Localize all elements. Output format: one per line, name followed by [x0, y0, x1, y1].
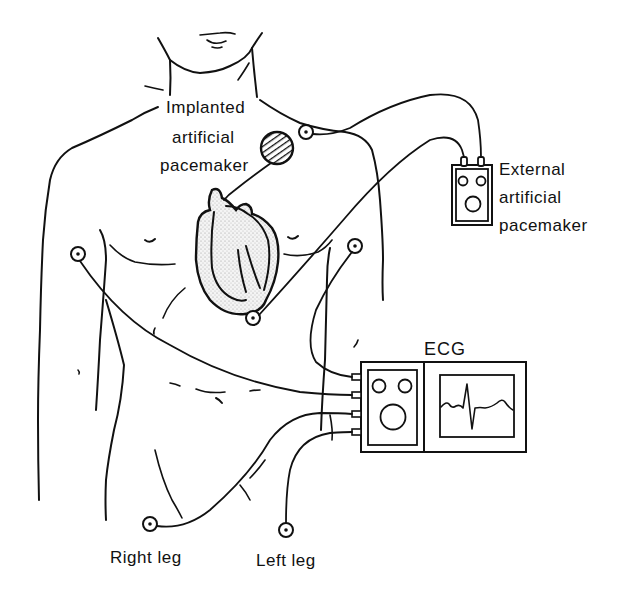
svg-text:Implanted: Implanted — [166, 98, 245, 117]
svg-text:pacemaker: pacemaker — [499, 216, 588, 235]
svg-text:pacemaker: pacemaker — [160, 156, 249, 175]
external-pacemaker — [452, 157, 492, 225]
ecg-label: ECG — [424, 339, 466, 359]
svg-text:artificial: artificial — [499, 188, 562, 207]
pacemaker-ecg-diagram: Implanted artificial pacemaker External … — [0, 0, 629, 598]
electrode-left-shoulder — [299, 125, 313, 139]
electrode-heart-apex — [246, 311, 260, 325]
electrode-left-chest — [348, 239, 362, 253]
implanted-pacemaker-label: Implanted artificial pacemaker — [160, 98, 249, 175]
heart — [196, 189, 278, 314]
left-leg-label: Left leg — [256, 551, 316, 570]
ecg-monitor — [352, 362, 526, 452]
electrode-right-chest — [71, 247, 85, 261]
svg-text:External: External — [499, 160, 565, 179]
right-leg-label: Right leg — [110, 548, 182, 567]
electrode-right-leg — [143, 517, 157, 531]
svg-text:artificial: artificial — [172, 128, 235, 147]
external-pacemaker-label: External artificial pacemaker — [499, 160, 588, 235]
electrode-left-leg — [279, 523, 293, 537]
